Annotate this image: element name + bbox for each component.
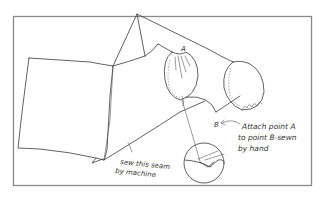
machine-sewing-note: sew this seam by machine [115,158,171,179]
seam-detail-magnifier [182,100,224,183]
sewing-diagram: A B sew this seam by machine [0,0,329,202]
hand-note-line2: to point B-sewn [238,133,297,142]
hand-note-line1: Attach point A [241,122,296,131]
sleeve-tube [104,14,240,160]
fabric-panel [18,58,113,163]
figure-frame [14,17,312,186]
hand-note-line3: by hand [238,144,269,153]
point-a-label: A [180,45,186,53]
arrow-to-point-b [222,121,240,124]
hand-sewing-note: Attach point A to point B-sewn by hand [238,122,297,153]
point-b-label: B [214,121,219,129]
